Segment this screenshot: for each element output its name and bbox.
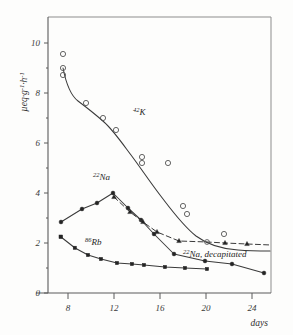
y-axis-tick-labels: 0 2 4 6 8 10	[31, 38, 41, 298]
data-point-k42	[113, 127, 118, 132]
data-point-k42	[100, 115, 105, 120]
data-point-k42	[184, 211, 189, 216]
data-point-rb86	[73, 246, 76, 249]
data-point-k42	[180, 203, 185, 208]
x-axis-title: days	[251, 318, 269, 328]
svg-text:µeq·g-1·h-1: µeq·g-1·h-1	[18, 72, 30, 112]
x-axis-tick-labels: 8 12 16 20 24	[66, 303, 257, 313]
data-point-na22	[111, 191, 115, 195]
data-point-rb86	[130, 262, 133, 265]
series-label-na22: 22Na	[93, 171, 111, 183]
y-tick-label: 8	[36, 88, 41, 98]
y-axis-title: µeq·g-1·h-1	[18, 72, 30, 112]
data-point-k42	[221, 231, 226, 236]
data-point-rb86	[142, 263, 145, 266]
data-point-na22	[262, 271, 266, 275]
x-tick-label: 20	[202, 303, 212, 313]
series-label-k42-main: K	[139, 107, 147, 117]
data-point-k42	[139, 154, 144, 159]
series-label-na22-main: Na	[99, 172, 111, 182]
data-point-k42	[165, 160, 170, 165]
chart-svg: 0 2 4 6 8 10 8 12 16 20 24 days	[0, 0, 293, 335]
data-point-rb86	[115, 261, 118, 264]
y-tick-label: 10	[31, 38, 41, 48]
data-point-na22	[203, 259, 207, 263]
y-tick-label: 0	[36, 288, 41, 298]
x-tick-label: 24	[248, 303, 258, 313]
figure-panel: 0 2 4 6 8 10 8 12 16 20 24 days	[0, 0, 293, 335]
data-point-rb86	[86, 253, 89, 256]
data-point-rb86	[99, 257, 102, 260]
data-point-k42	[139, 160, 144, 165]
series-na22-decapitated	[112, 194, 271, 245]
series-label-na22-decapitated: 22Na, decapitated	[183, 248, 247, 260]
series-na22-line	[61, 193, 264, 273]
series-label-na22dec-main: Na, decapitated	[189, 249, 247, 259]
x-tick-label: 12	[110, 303, 120, 313]
series-label-rb86: 86Rb	[85, 236, 102, 248]
series-label-k42: 42K	[133, 106, 147, 118]
data-point-rb86	[183, 266, 186, 269]
series-na22	[59, 191, 266, 275]
x-tick-label: 8	[66, 303, 71, 313]
series-label-rb86-main: Rb	[91, 237, 102, 247]
y-tick-label: 6	[36, 138, 41, 148]
data-point-na22	[95, 201, 99, 205]
data-point-na22	[80, 207, 84, 211]
y-tick-label: 2	[36, 238, 41, 248]
data-point-na22-decapitated	[155, 229, 160, 233]
data-point-k42	[83, 100, 88, 105]
data-point-na22	[172, 252, 176, 256]
data-point-na22	[230, 262, 234, 266]
data-point-k42	[60, 51, 65, 56]
data-point-na22-decapitated	[245, 241, 250, 245]
series-k42	[60, 51, 270, 251]
series-na22-decapitated-line	[114, 197, 271, 245]
data-point-rb86	[59, 235, 63, 239]
y-axis-ticks	[44, 43, 48, 293]
data-point-rb86	[163, 265, 166, 268]
data-point-na22	[59, 220, 63, 224]
data-point-rb86	[205, 267, 208, 270]
y-axis-title-exp2: -1	[18, 72, 25, 77]
y-tick-label: 4	[36, 188, 41, 198]
x-tick-label: 16	[156, 303, 166, 313]
series-k42-line	[63, 68, 270, 251]
x-axis-ticks	[68, 293, 252, 299]
y-axis-title-main: µeq·g	[19, 90, 29, 112]
